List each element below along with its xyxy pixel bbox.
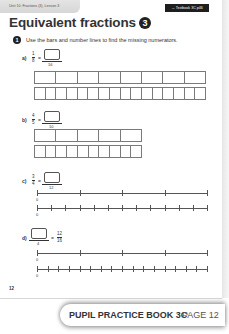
bar-segment <box>77 130 98 141</box>
number-line-tick <box>193 205 194 211</box>
part-d-target-fraction: 12 16 <box>57 231 62 243</box>
zero-label: 0 <box>36 197 38 202</box>
zero-label: 0 <box>36 212 38 217</box>
numerator: 12 <box>57 231 62 236</box>
textbook-reference-link[interactable]: → Textbook 3C p46 <box>165 4 209 12</box>
bar-segment <box>55 146 66 157</box>
number-line-tick <box>80 205 81 211</box>
equals-sign: = <box>38 178 41 184</box>
number-line-tick <box>80 250 81 256</box>
part-a-bar-sixteenths <box>34 87 206 100</box>
number-line-tick <box>37 250 38 256</box>
number-line-tick <box>37 205 38 211</box>
number-line-tick <box>122 190 123 196</box>
part-c-answer-box[interactable] <box>44 172 60 183</box>
bar-segment <box>98 88 109 99</box>
equals-sign: = <box>51 235 54 241</box>
bar-segment <box>109 146 120 157</box>
number-line-tick <box>48 266 49 272</box>
part-b-given-fraction: 4 5 <box>32 113 35 125</box>
number-line-tick <box>133 266 134 272</box>
book-title: PUPIL PRACTICE BOOK 3C <box>69 310 187 320</box>
breadcrumb: Unit 10: Fractions (3), Lesson 3 <box>9 4 59 8</box>
number-line-tick <box>165 250 166 256</box>
bar-segment <box>35 72 55 83</box>
number-line-tick <box>207 205 208 211</box>
part-b-bar-fifths <box>34 129 142 142</box>
part-b-label: b) <box>22 117 27 123</box>
bar-segment <box>66 88 77 99</box>
footer-banner: PUPIL PRACTICE BOOK 3C PAGE 12 <box>60 304 225 326</box>
denominator: 4 <box>32 181 35 186</box>
number-line-tick <box>37 190 38 196</box>
bar-segment <box>194 88 205 99</box>
bar-segment <box>130 88 141 99</box>
number-line-tick <box>80 190 81 196</box>
bar-segment <box>55 130 76 141</box>
book-page: PAGE 12 <box>182 310 219 320</box>
number-line-tick <box>143 266 144 272</box>
bar-segment <box>152 88 163 99</box>
part-a-label: a) <box>22 55 26 61</box>
part-d-answer-box[interactable] <box>31 228 47 239</box>
number-line-tick <box>207 250 208 256</box>
page-number: 12 <box>9 286 14 291</box>
bar-segment <box>87 88 98 99</box>
bar-segment <box>35 146 45 157</box>
number-line-tick <box>207 190 208 196</box>
zero-label: 0 <box>36 257 38 262</box>
bar-segment <box>120 130 141 141</box>
number-line-tick <box>58 266 59 272</box>
number-line-tick <box>51 205 52 211</box>
number-line-tick <box>101 266 102 272</box>
number-line-tick <box>94 205 95 211</box>
denominator: 8 <box>32 58 35 63</box>
bar-segment <box>184 88 195 99</box>
part-c-number-line-quarters <box>37 190 207 196</box>
number-line-tick <box>90 266 91 272</box>
bar-segment <box>66 146 77 157</box>
number-line-tick <box>122 266 123 272</box>
number-line-tick <box>154 266 155 272</box>
number-line-tick <box>111 266 112 272</box>
number-line-tick <box>179 205 180 211</box>
part-d-number-line-quarters <box>37 250 207 256</box>
bar-segment <box>77 72 98 83</box>
number-line-tick <box>37 266 38 272</box>
bar-segment <box>162 72 183 83</box>
worksheet-page: Unit 10: Fractions (3), Lesson 3 → Textb… <box>0 0 222 299</box>
equals-sign: = <box>38 117 41 123</box>
unit-header-tab: Unit 10: Fractions (3), Lesson 3 <box>0 0 80 13</box>
equals-sign: = <box>38 55 41 61</box>
number-line-tick <box>108 205 109 211</box>
number-line-tick <box>165 205 166 211</box>
denominator: 5 <box>32 120 35 125</box>
bar-segment <box>88 146 99 157</box>
number-line-tick <box>207 266 208 272</box>
number-line-tick <box>150 205 151 211</box>
bar-segment <box>120 72 141 83</box>
part-d-given-denominator: 4 <box>37 241 39 246</box>
bar-segment <box>77 146 88 157</box>
part-a-bar-eighths <box>34 71 206 84</box>
number-line-tick <box>165 190 166 196</box>
number-line-tick <box>80 266 81 272</box>
part-b-answer-box[interactable] <box>44 111 60 122</box>
part-b-bar-tenths <box>34 145 142 158</box>
number-line-tick <box>122 205 123 211</box>
bar-segment <box>35 88 45 99</box>
question-instruction: Use the bars and number lines to find th… <box>26 36 178 44</box>
number-line-tick <box>136 205 137 211</box>
part-a-answer-box[interactable] <box>44 49 60 60</box>
title-text: Equivalent fractions <box>9 15 136 30</box>
page-title: Equivalent fractions3 <box>9 15 151 30</box>
bar-segment <box>55 72 76 83</box>
bar-segment <box>130 146 141 157</box>
bar-segment <box>141 88 152 99</box>
bar-segment <box>98 146 109 157</box>
bar-segment <box>184 72 205 83</box>
part-d-number-line-sixteenths <box>37 266 207 272</box>
page-edge-shadow <box>222 0 229 298</box>
part-a-target-denominator: 16 <box>48 62 52 67</box>
bar-segment <box>109 88 120 99</box>
